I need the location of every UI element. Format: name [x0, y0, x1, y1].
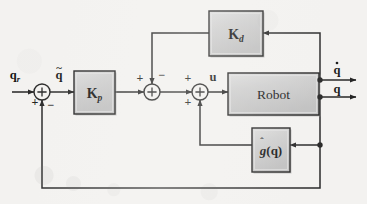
velocity-tap-dot — [317, 77, 322, 82]
sum1-minus-sign: − — [48, 98, 55, 112]
position-error-label: q~ — [56, 61, 63, 83]
block-diagram-figure: KdKpRobotg(q)ˆ +−+−++ qrq~uqq — [0, 0, 367, 204]
gravity compensation block: g(q)ˆ — [252, 128, 292, 174]
sum1-plus-sign: + — [32, 95, 39, 109]
control-torque-label: u — [210, 70, 217, 84]
position-error-label-tilde-accent: ~ — [56, 61, 62, 73]
block-diagram-canvas: KdKpRobotg(q)ˆ +−+−++ qrq~uqq — [0, 0, 367, 204]
Kd gain block: Kd — [209, 11, 265, 58]
sum3-plus-sign-bottom: + — [185, 95, 192, 109]
joint-velocity-output-label-dot-accent — [336, 62, 339, 65]
Kp gain block: Kp — [74, 71, 117, 116]
svg-text:q: q — [334, 63, 341, 77]
sum3-plus-sign-top: + — [185, 71, 192, 85]
gravity-feedback-tap-dot — [317, 142, 322, 147]
sum2-minus-sign: − — [159, 68, 166, 82]
sum2-plus-sign: + — [137, 71, 144, 85]
position-tap-dot — [317, 94, 322, 99]
joint-velocity-output-label: q — [334, 62, 341, 77]
robot-block-label: Robot — [257, 87, 290, 102]
velocity damping summing junction — [144, 84, 160, 100]
svg-text:u: u — [210, 70, 217, 84]
svg-text:q: q — [334, 82, 341, 96]
torque summing junction — [192, 84, 208, 100]
joint-position-output-label: q — [334, 82, 341, 96]
Robot plant block: Robot — [228, 73, 321, 117]
